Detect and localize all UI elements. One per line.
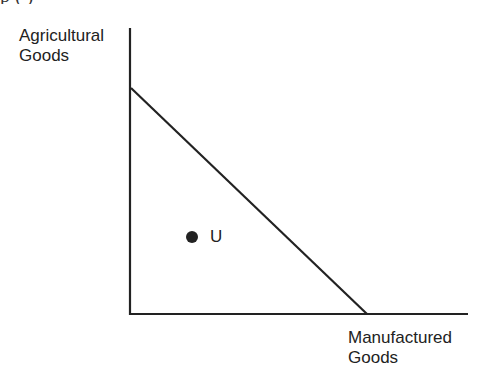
- point-u-label: U: [210, 227, 222, 247]
- production-possibilities-frontier-line: [131, 88, 367, 314]
- ppf-diagram: [0, 0, 493, 383]
- point-u-marker: [186, 231, 198, 243]
